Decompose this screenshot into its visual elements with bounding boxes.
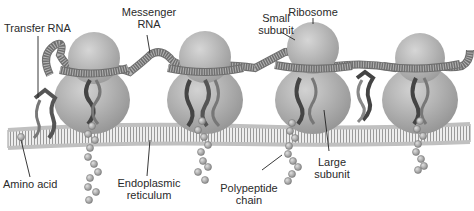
ribosome-3 — [275, 22, 352, 134]
amino-acid-bead — [18, 134, 25, 141]
label-polypeptide-line1: Polypeptide — [216, 182, 282, 194]
label-endoplasmic-reticulum: Endoplasmic reticulum — [114, 177, 184, 201]
label-polypeptide-chain: Polypeptide chain — [216, 182, 282, 206]
transfer-rna-free-2 — [357, 72, 373, 122]
diagram-canvas — [0, 0, 474, 211]
leader-polypeptide — [262, 155, 282, 170]
label-er-line2: reticulum — [114, 189, 184, 201]
label-messenger-rna-line1: Messenger — [120, 6, 178, 18]
label-messenger-rna: Messenger RNA — [120, 6, 178, 30]
small-subunit — [395, 33, 445, 83]
label-polypeptide-line2: chain — [216, 194, 282, 206]
leader-messenger-rna — [147, 35, 150, 53]
label-large-subunit-line1: Large — [312, 156, 352, 168]
label-large-subunit: Large subunit — [312, 156, 352, 180]
label-transfer-rna: Transfer RNA — [4, 22, 71, 34]
label-messenger-rna-line2: RNA — [120, 18, 178, 30]
label-er-line1: Endoplasmic — [114, 177, 184, 189]
label-large-subunit-line2: subunit — [312, 168, 352, 180]
label-amino-acid: Amino acid — [3, 178, 57, 190]
label-small-subunit-line2: subunit — [256, 24, 296, 36]
label-ribosome: Ribosome — [287, 6, 339, 18]
ribosome-2 — [167, 31, 243, 134]
